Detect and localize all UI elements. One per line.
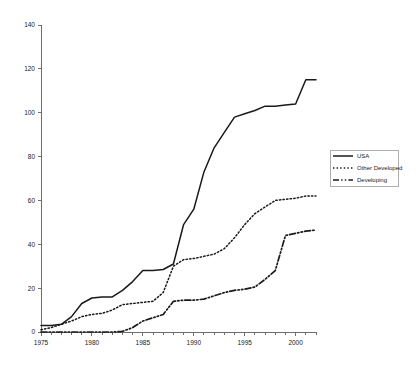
x-tick-label: 1995 xyxy=(237,339,252,346)
series-line-other-developed xyxy=(41,196,316,330)
y-tick-label: 80 xyxy=(28,153,36,160)
y-tick-label: 120 xyxy=(24,65,35,72)
x-tick-label: 1980 xyxy=(85,339,100,346)
chart-axes xyxy=(41,25,316,332)
y-tick-label: 0 xyxy=(31,328,35,335)
y-tick-label: 40 xyxy=(28,241,36,248)
y-tick-label: 20 xyxy=(28,285,36,292)
chart-legend: USAOther DevelopedDeveloping xyxy=(330,150,402,186)
y-tick-label: 100 xyxy=(24,109,35,116)
series-line-usa xyxy=(41,80,316,326)
x-axis-tick-labels: 197519801985199019952000 xyxy=(34,339,303,346)
y-axis-tick-labels: 020406080100120140 xyxy=(24,21,35,335)
chart-tick-marks xyxy=(38,25,316,336)
legend-label-developing: Developing xyxy=(357,177,387,183)
y-tick-label: 140 xyxy=(24,21,35,28)
x-tick-label: 2000 xyxy=(288,339,303,346)
legend-label-usa: USA xyxy=(357,153,369,159)
legend-label-other-developed: Other Developed xyxy=(357,165,402,171)
x-tick-label: 1990 xyxy=(187,339,202,346)
y-tick-label: 60 xyxy=(28,197,36,204)
chart-series-lines xyxy=(41,80,316,332)
x-tick-label: 1975 xyxy=(34,339,49,346)
line-chart: 020406080100120140 197519801985199019952… xyxy=(0,0,416,366)
chart-container: 020406080100120140 197519801985199019952… xyxy=(0,0,416,366)
x-tick-label: 1985 xyxy=(136,339,151,346)
